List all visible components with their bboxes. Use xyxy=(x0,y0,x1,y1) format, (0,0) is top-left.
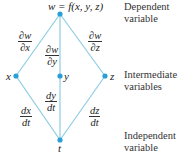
numerator: ∂w xyxy=(45,44,59,56)
node-label-t: t xyxy=(58,142,61,154)
denominator: dt xyxy=(89,117,100,128)
numerator: dx xyxy=(20,105,32,117)
denominator: ∂x xyxy=(18,42,32,53)
numerator: ∂w xyxy=(88,30,102,42)
denominator: dt xyxy=(20,117,32,128)
side-label-intermediate: Intermediate variables xyxy=(124,69,177,93)
side-label-dependent: Dependent variable xyxy=(124,1,169,25)
node-x xyxy=(13,73,18,78)
chain-rule-tree-diagram: w = f(x, y, z) x y z t ∂w ∂x ∂w ∂y ∂w ∂z… xyxy=(0,0,178,155)
numerator: ∂w xyxy=(18,30,32,42)
node-label-y: y xyxy=(64,70,69,82)
node-w xyxy=(57,11,62,16)
node-label-z: z xyxy=(110,70,114,82)
denominator: dt xyxy=(45,102,57,113)
numerator: dz xyxy=(89,105,100,117)
node-label-w: w = f(x, y, z) xyxy=(48,0,103,12)
edge-label-dw-dy: ∂w ∂y xyxy=(45,44,59,67)
node-z xyxy=(102,73,107,78)
numerator: dy xyxy=(45,90,57,102)
side-label-independent: Independent variable xyxy=(124,130,176,154)
node-y xyxy=(57,73,62,78)
edge-label-dw-dz: ∂w ∂z xyxy=(88,30,102,53)
edge-label-dx-dt: dx dt xyxy=(20,105,32,128)
edge-label-dw-dx: ∂w ∂x xyxy=(18,30,32,53)
node-label-x: x xyxy=(6,70,11,82)
denominator: ∂z xyxy=(88,42,102,53)
denominator: ∂y xyxy=(45,56,59,67)
edge-label-dz-dt: dz dt xyxy=(89,105,100,128)
edge-label-dy-dt: dy dt xyxy=(45,90,57,113)
